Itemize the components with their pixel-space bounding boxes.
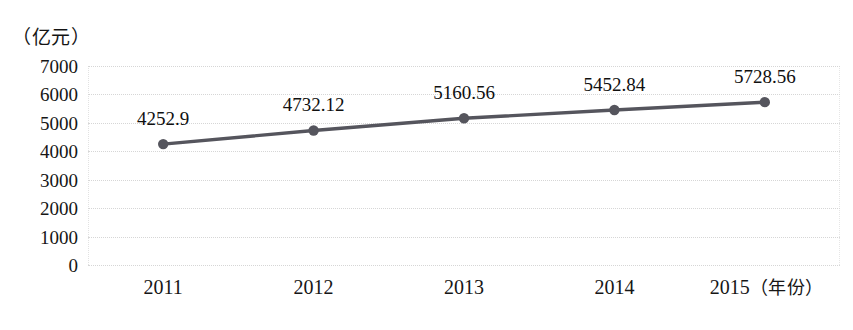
data-label-2012: 4732.12 — [283, 95, 345, 115]
y-tick-4000: 4000 — [2, 142, 78, 161]
gridline-2000 — [88, 208, 840, 209]
x-axis-tick-labels: 2011 2012 2013 2014 2015（年份） — [0, 276, 853, 310]
x-tick-2012: 2012 — [294, 276, 334, 298]
x-axis-unit-label: （年份） — [750, 278, 824, 298]
y-tick-0: 0 — [2, 256, 78, 275]
gridline-0 — [88, 265, 840, 266]
y-tick-7000: 7000 — [2, 57, 78, 76]
data-label-2015: 5728.56 — [734, 67, 796, 87]
data-label-2014: 5452.84 — [584, 75, 646, 95]
gridline-5000 — [88, 123, 840, 124]
x-tick-2015-year: 2015 — [710, 276, 750, 298]
y-axis-tick-labels: 7000 6000 5000 4000 3000 2000 1000 0 — [0, 66, 78, 265]
gridline-7000 — [88, 66, 840, 67]
data-label-2013: 5160.56 — [433, 83, 495, 103]
plot-right-edge — [839, 66, 840, 265]
x-tick-2011: 2011 — [144, 276, 183, 298]
y-tick-3000: 3000 — [2, 171, 78, 190]
data-label-2011: 4252.9 — [137, 109, 189, 129]
gridline-1000 — [88, 237, 840, 238]
y-tick-2000: 2000 — [2, 199, 78, 218]
x-tick-2014: 2014 — [594, 276, 634, 298]
plot-left-edge — [88, 66, 89, 265]
gridline-4000 — [88, 151, 840, 152]
chart-page: （亿元） 7000 6000 5000 4000 3000 2000 1000 … — [0, 0, 853, 330]
x-tick-2013: 2013 — [444, 276, 484, 298]
y-tick-5000: 5000 — [2, 114, 78, 133]
y-tick-6000: 6000 — [2, 85, 78, 104]
y-axis-unit-label: （亿元） — [12, 22, 90, 49]
gridline-3000 — [88, 180, 840, 181]
x-tick-2015: 2015（年份） — [710, 276, 824, 299]
y-tick-1000: 1000 — [2, 228, 78, 247]
